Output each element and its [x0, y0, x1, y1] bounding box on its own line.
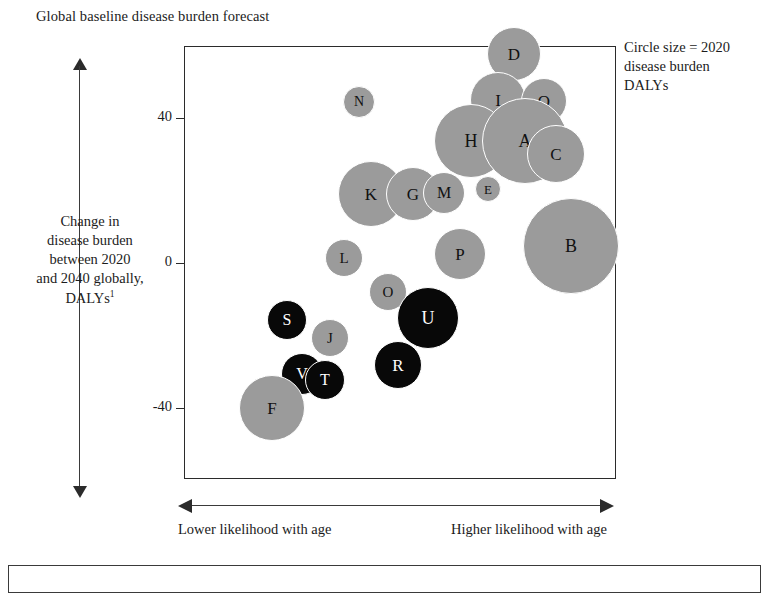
bubble-e[interactable]: E — [475, 176, 501, 202]
bubble-b[interactable]: B — [523, 198, 619, 294]
plot-area: DIQNHACKGMEBLPOSUJRVTF — [184, 46, 616, 479]
legend-note-line-1: Circle size = 2020 — [624, 38, 762, 57]
bubble-label-u: U — [422, 309, 435, 327]
bubble-label-g: G — [407, 185, 419, 202]
y-axis-title-line-2: disease burden — [8, 231, 172, 250]
bubble-label-e: E — [484, 182, 492, 195]
bubble-c[interactable]: C — [527, 125, 585, 183]
y-axis-tick-label-1: 40 — [128, 108, 172, 125]
x-axis-arrow-right-icon — [600, 499, 614, 513]
bubble-s[interactable]: S — [267, 300, 307, 340]
bubble-label-c: C — [550, 145, 561, 162]
footnote-box — [8, 565, 761, 593]
y-axis-title-line-5-text: DALYs — [65, 290, 109, 306]
bubble-label-k: K — [365, 185, 377, 202]
y-axis-title-line-5: DALYs1 — [8, 289, 172, 308]
bubble-p[interactable]: P — [434, 228, 486, 280]
bubble-label-m: M — [437, 185, 451, 201]
bubble-u[interactable]: U — [397, 287, 459, 349]
legend-note-line-2: disease burden — [624, 57, 762, 76]
legend-note: Circle size = 2020 disease burden DALYs — [624, 38, 762, 95]
bubble-label-f: F — [267, 399, 276, 416]
x-axis-label-right: Higher likelihood with age — [451, 521, 607, 538]
bubble-label-d: D — [508, 45, 520, 62]
bubble-label-h: H — [465, 132, 478, 150]
chart-title: Global baseline disease burden forecast — [36, 8, 269, 25]
y-axis-title-line-4: and 2040 globally, — [8, 269, 172, 288]
bubble-label-j: J — [327, 330, 333, 345]
bubble-label-s: S — [283, 312, 292, 328]
bubble-label-n: N — [354, 95, 364, 109]
bubble-label-b: B — [565, 237, 577, 255]
bubble-r[interactable]: R — [374, 341, 422, 389]
bubble-label-t: T — [320, 372, 330, 388]
bubble-m[interactable]: M — [423, 172, 465, 214]
bubble-n[interactable]: N — [343, 86, 375, 118]
y-axis-tick-label-2: 0 — [128, 253, 172, 270]
bubble-t[interactable]: T — [305, 360, 345, 400]
bubble-f[interactable]: F — [239, 375, 305, 441]
legend-note-line-3: DALYs — [624, 76, 762, 95]
bubble-label-p: P — [455, 245, 464, 262]
bubble-l[interactable]: L — [325, 239, 363, 277]
bubble-label-l: L — [339, 250, 348, 265]
x-axis-arrow-left-icon — [178, 499, 192, 513]
y-axis-tick-label-3: -40 — [128, 398, 172, 415]
bubble-label-r: R — [392, 356, 403, 373]
y-axis-title-line-1: Change in — [8, 212, 172, 231]
bubble-layer: DIQNHACKGMEBLPOSUJRVTF — [185, 47, 615, 478]
x-axis-label-left: Lower likelihood with age — [178, 521, 331, 538]
bubble-j[interactable]: J — [311, 319, 349, 357]
bubble-label-o: O — [383, 284, 394, 299]
y-axis-title-footnote-marker: 1 — [110, 289, 115, 299]
x-axis-arrow-line — [192, 505, 608, 506]
y-axis-arrow-down-icon — [73, 486, 87, 498]
